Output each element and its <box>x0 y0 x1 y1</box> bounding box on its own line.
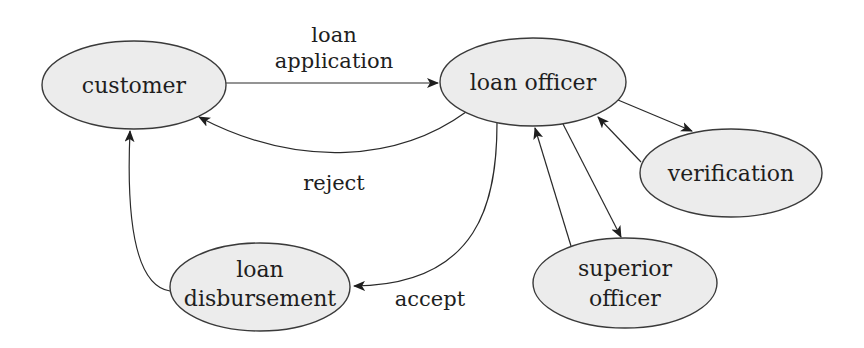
edge-label-reject: reject <box>303 171 365 195</box>
workflow-diagram: customer loan officer verification super… <box>0 0 864 348</box>
node-loan-disbursement: loan disbursement <box>170 243 350 331</box>
edge-reject <box>199 112 466 153</box>
node-label-line1: superior <box>578 256 672 281</box>
edge-from-verification <box>598 117 641 162</box>
node-loan-officer: loan officer <box>440 38 626 126</box>
node-superior-officer: superior officer <box>533 238 717 328</box>
node-label: verification <box>667 161 794 186</box>
edge-label-loan-line2: application <box>275 49 393 73</box>
edge-accept <box>354 123 497 286</box>
edge-to-verification <box>618 100 692 131</box>
node-customer: customer <box>42 41 226 129</box>
edge-from-superior <box>535 128 571 246</box>
node-label: customer <box>82 73 187 98</box>
node-label: loan officer <box>470 70 597 95</box>
node-label-line1: loan <box>236 257 284 282</box>
edge-label-accept: accept <box>395 287 466 311</box>
node-label-line2: officer <box>589 286 661 311</box>
edge-label-loan-line1: loan <box>311 23 356 47</box>
edge-to-superior <box>563 124 621 237</box>
edge-disbursement-to-customer <box>129 131 170 291</box>
node-label-line2: disbursement <box>184 286 337 311</box>
node-verification: verification <box>640 129 822 217</box>
